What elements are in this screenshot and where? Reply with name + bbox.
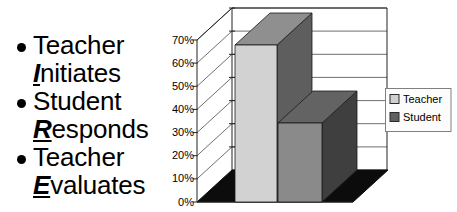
left-wall-gridlines <box>197 8 232 179</box>
bar-student-front-face <box>278 123 322 202</box>
y-axis-labels: 0% 10% 20% 30% 40% 50% 60% 70% <box>172 34 194 208</box>
legend-swatch-student <box>390 113 399 122</box>
bar-teacher-front-face <box>235 45 277 202</box>
legend-swatch-teacher <box>390 95 399 104</box>
bar-chart-3d: 0% 10% 20% 30% 40% 50% 60% 70% Teacher <box>0 0 457 212</box>
y-tick-label: 40% <box>172 103 194 115</box>
y-tick-label: 60% <box>172 57 194 69</box>
legend: Teacher Student <box>386 89 452 132</box>
y-tick-label: 10% <box>172 172 194 184</box>
y-tick-label: 50% <box>172 80 194 92</box>
y-tick-label: 70% <box>172 34 194 46</box>
slide: Teacher Initiates Student Responds Teach… <box>0 0 457 212</box>
y-tick-label: 20% <box>172 149 194 161</box>
legend-label-student: Student <box>403 111 441 123</box>
y-tick-label: 0% <box>178 196 194 208</box>
y-tick-label: 30% <box>172 126 194 138</box>
legend-label-teacher: Teacher <box>403 93 442 105</box>
